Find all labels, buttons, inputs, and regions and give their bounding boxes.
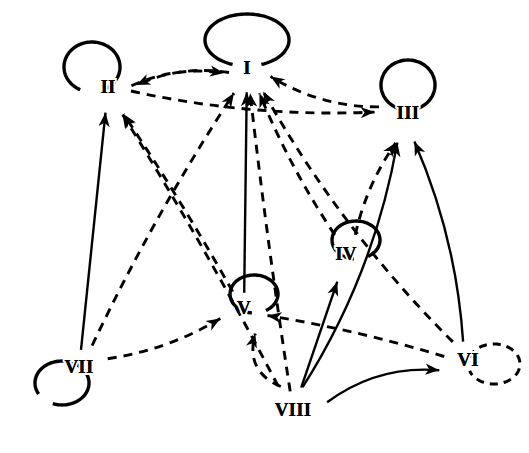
- node-label-vii: VII: [64, 356, 93, 377]
- node-label-vi: VI: [457, 349, 479, 370]
- graph-diagram: IIIIIIIIIIIIIVIVVVVIVIVIIVIIVIIIVIII: [0, 0, 529, 453]
- diagram-background: [0, 0, 529, 453]
- node-label-v: V: [237, 297, 251, 318]
- graph-canvas: IIIIIIIIIIIIIVIVVVVIVIVIIVIIVIIIVIII: [0, 0, 529, 453]
- node-label-i: I: [243, 57, 251, 78]
- node-label-iv: IV: [335, 243, 357, 264]
- node-label-iii: III: [397, 102, 420, 123]
- node-label-viii: VIII: [275, 399, 312, 420]
- node-label-ii: II: [100, 76, 115, 97]
